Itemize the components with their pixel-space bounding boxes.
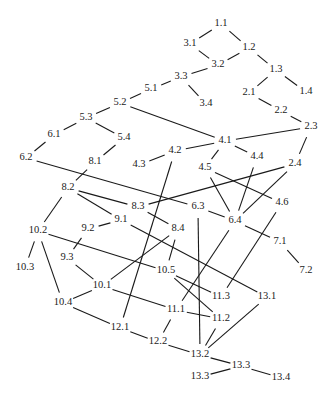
- node-2.2: 2.2: [274, 104, 287, 115]
- dependency-diagram: 1.11.21.31.42.12.22.32.43.13.23.33.44.14…: [0, 0, 330, 405]
- node-5.3: 5.3: [79, 111, 92, 122]
- node-12.2: 12.2: [149, 335, 167, 346]
- node-11.3: 11.3: [212, 290, 230, 301]
- edge-8.2-9.1: [77, 194, 111, 215]
- node-12.1: 12.1: [111, 321, 129, 332]
- edge-12.2-13.2: [169, 345, 190, 351]
- node-4.5: 4.5: [198, 161, 211, 172]
- node-10.5: 10.5: [157, 264, 175, 275]
- edge-5.1-5.2: [130, 94, 141, 99]
- edge-6.1-6.2: [35, 142, 46, 151]
- node-4.6: 4.6: [275, 196, 288, 207]
- edge-5.4-8.1: [104, 145, 116, 155]
- edge-7.1-7.2: [287, 250, 298, 263]
- node-11.2: 11.2: [212, 312, 230, 323]
- edge-8.2-8.3: [79, 191, 128, 204]
- edge-4.1-4.5: [212, 150, 219, 159]
- node-1.4: 1.4: [299, 85, 313, 96]
- edge-10.4-12.1: [73, 307, 110, 323]
- edge-9.3-10.1: [76, 265, 94, 279]
- node-1.1: 1.1: [214, 17, 227, 28]
- edge-3.2-1.2: [228, 53, 240, 59]
- edge-1.1-1.2: [229, 31, 240, 41]
- edge-6.3-6.4: [208, 211, 224, 217]
- edge-5.2-4.1: [130, 107, 214, 138]
- edge-3.3-5.1: [161, 81, 171, 85]
- node-7.1: 7.1: [273, 235, 286, 246]
- edge-2.3-4.1: [236, 129, 300, 139]
- edge-1.3-2.1: [257, 77, 267, 86]
- edge-1.3-1.4: [285, 77, 297, 86]
- node-13.1: 13.1: [258, 290, 276, 301]
- node-8.2: 8.2: [61, 181, 74, 192]
- edge-10.2-10.4: [42, 241, 60, 292]
- node-6.1: 6.1: [47, 128, 60, 139]
- edge-13.3-13.3b: [211, 369, 231, 374]
- node-10.3: 10.3: [16, 261, 34, 272]
- node-3.4: 3.4: [199, 97, 213, 108]
- node-4.4: 4.4: [250, 150, 264, 161]
- edge-11.1-12.2: [163, 320, 170, 333]
- node-1.2: 1.2: [242, 41, 255, 52]
- node-13.3: 13.3: [232, 359, 250, 370]
- edge-3.1-3.2: [199, 51, 209, 59]
- edge-layer: [29, 30, 307, 375]
- node-3.1: 3.1: [183, 37, 196, 48]
- edge-2.4-8.3: [149, 167, 285, 204]
- node-8.1: 8.1: [88, 155, 101, 166]
- node-10.4: 10.4: [54, 296, 73, 307]
- node-4.3: 4.3: [132, 158, 145, 169]
- node-6.3: 6.3: [191, 200, 204, 211]
- edge-10.2-10.3: [29, 241, 35, 257]
- edge-3.3-3.4: [189, 85, 199, 96]
- edge-11.1-11.2: [187, 312, 210, 317]
- edge-13.2-13.3: [211, 358, 231, 363]
- edge-10.1-10.4: [73, 290, 92, 298]
- node-11.1: 11.1: [167, 303, 185, 314]
- node-6.4: 6.4: [228, 214, 242, 225]
- node-9.2: 9.2: [81, 222, 94, 233]
- node-8.4: 8.4: [171, 222, 185, 233]
- edge-13.1-13.2: [208, 304, 258, 348]
- edge-3.2-3.3: [192, 68, 208, 73]
- node-5.1: 5.1: [144, 82, 157, 93]
- edge-6.3-13.2: [198, 218, 200, 344]
- node-10.2: 10.2: [29, 224, 47, 235]
- node-5.2: 5.2: [113, 96, 126, 107]
- node-7.2: 7.2: [299, 264, 312, 275]
- node-13.2: 13.2: [191, 348, 209, 359]
- edge-9.1-9.2: [99, 223, 111, 226]
- node-9.3: 9.3: [60, 251, 73, 262]
- node-10.1: 10.1: [93, 279, 111, 290]
- edge-2.3-2.4: [299, 137, 306, 154]
- node-2.1: 2.1: [242, 86, 255, 97]
- edge-4.1-4.4: [235, 146, 247, 152]
- node-6.2: 6.2: [19, 151, 32, 162]
- node-3.3: 3.3: [174, 70, 187, 81]
- edge-8.3-8.4: [148, 212, 169, 223]
- node-2.4: 2.4: [288, 157, 302, 168]
- node-4.2: 4.2: [168, 144, 181, 155]
- node-13.4: 13.4: [272, 371, 291, 382]
- edge-1.2-1.3: [258, 55, 268, 63]
- edge-12.1-12.2: [130, 332, 147, 338]
- node-1.3: 1.3: [269, 63, 282, 74]
- edge-13.3-13.4: [252, 369, 271, 375]
- node-4.1: 4.1: [218, 134, 231, 145]
- node-13.3b: 13.3: [191, 370, 209, 381]
- edge-5.2-5.3: [96, 107, 110, 113]
- edge-8.2-10.2: [44, 197, 61, 222]
- node-9.1: 9.1: [114, 213, 127, 224]
- node-3.2: 3.2: [211, 58, 224, 69]
- node-5.4: 5.4: [117, 131, 131, 142]
- edge-4.2-4.3: [149, 155, 164, 161]
- edge-8.4-10.5: [169, 240, 175, 261]
- edge-5.3-5.4: [96, 123, 115, 133]
- edge-4.1-4.2: [186, 143, 214, 149]
- edge-10.1-11.1: [113, 289, 166, 306]
- node-2.3: 2.3: [304, 120, 317, 131]
- node-8.3: 8.3: [131, 200, 144, 211]
- edge-2.1-2.2: [259, 98, 272, 105]
- edge-2.2-2.3: [291, 116, 302, 122]
- edge-5.3-6.1: [64, 123, 77, 130]
